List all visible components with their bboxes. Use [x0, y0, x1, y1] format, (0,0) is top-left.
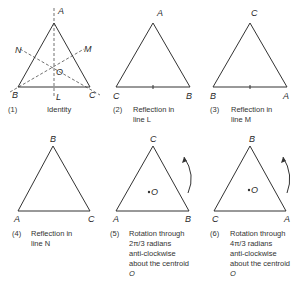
panel-4-number: (4) [12, 229, 21, 238]
svg-text:M: M [84, 44, 92, 54]
triangle-2 [116, 23, 190, 87]
svg-text:B: B [12, 90, 18, 100]
svg-text:B: B [186, 91, 192, 101]
triangle-5 [116, 146, 189, 211]
triangle-6 [214, 146, 286, 211]
svg-text:A: A [57, 6, 64, 16]
svg-text:A: A [13, 214, 20, 224]
svg-text:L: L [56, 92, 61, 102]
svg-text:O: O [251, 185, 258, 195]
svg-text:C: C [251, 8, 258, 18]
svg-text:B: B [249, 134, 255, 144]
svg-text:C: C [113, 91, 120, 101]
svg-text:C: C [150, 134, 157, 144]
triangle-3 [213, 23, 287, 87]
svg-text:N: N [15, 45, 22, 55]
panel-2-number: (2) [113, 105, 122, 114]
axis-M [10, 49, 84, 92]
panel-2-caption: Reflection inline L [133, 105, 174, 125]
panel-1-number: (1) [8, 105, 17, 114]
panel-3-number: (3) [210, 105, 219, 114]
panel-4-caption: Reflection inline N [31, 229, 72, 249]
svg-text:A: A [283, 214, 290, 224]
panel-5-number: (5) [110, 229, 119, 238]
panel-3-caption: Reflection inline M [231, 105, 272, 125]
panel-6-caption: Rotation through4π/3 radiansanti-clockwi… [230, 229, 290, 279]
svg-text:B: B [210, 91, 216, 101]
svg-text:O: O [151, 187, 158, 197]
svg-text:C: C [89, 90, 96, 100]
panel-6-number: (6) [210, 229, 219, 238]
rotation-arrow-6 [283, 157, 290, 193]
rotation-arrow-5 [184, 157, 191, 193]
triangle-4 [18, 146, 90, 211]
svg-text:A: A [112, 214, 119, 224]
svg-text:A: A [156, 8, 163, 18]
panel-5-caption: Rotation through2π/3 radiansanti-clockwi… [129, 229, 189, 279]
svg-text:A: A [282, 91, 289, 101]
svg-text:O: O [56, 67, 63, 77]
svg-text:B: B [50, 134, 56, 144]
svg-text:B: B [185, 214, 191, 224]
svg-text:C: C [88, 214, 95, 224]
svg-text:C: C [212, 214, 219, 224]
panel-1-caption: Identity [47, 105, 71, 115]
